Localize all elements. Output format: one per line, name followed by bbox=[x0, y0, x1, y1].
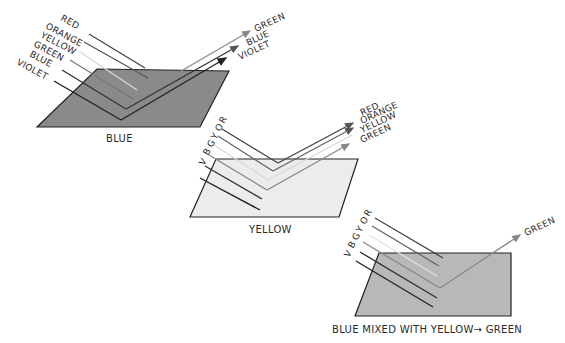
yellow-surface bbox=[190, 159, 358, 217]
svg-text:V: V bbox=[197, 156, 209, 167]
blue-reflected-labels: GREEN BLUE VIOLET bbox=[237, 11, 287, 62]
color-reflection-diagram: RED ORANGE YELLOW GREEN BLUE VIOLET GREE… bbox=[0, 0, 565, 343]
mixed-caption: BLUE MIXED WITH YELLOW→ GREEN bbox=[332, 324, 522, 335]
blue-incident-labels: RED ORANGE YELLOW GREEN BLUE VIOLET bbox=[15, 13, 84, 82]
mixed-reflected-label: GREEN bbox=[523, 215, 557, 238]
mixed-incident-labels: V B G Y O R bbox=[342, 207, 374, 259]
blue-surface bbox=[37, 69, 229, 127]
yellow-reflected-labels: RED ORANGE YELLOW GREEN bbox=[358, 100, 400, 145]
yellow-caption: YELLOW bbox=[248, 224, 292, 235]
svg-text:GREEN: GREEN bbox=[253, 11, 287, 34]
blue-caption: BLUE bbox=[106, 133, 133, 144]
blue-panel: RED ORANGE YELLOW GREEN BLUE VIOLET GREE… bbox=[15, 11, 287, 144]
mixed-panel: V B G Y O R GREEN BLUE MIXED WITH YELLOW… bbox=[332, 207, 557, 335]
